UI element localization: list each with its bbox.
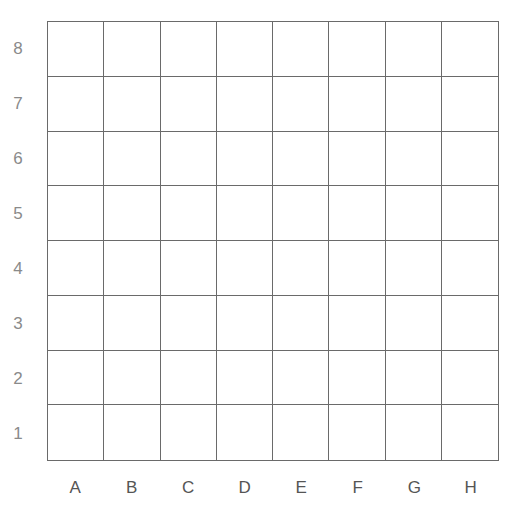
board-cell-h7[interactable]	[442, 77, 498, 132]
board-cell-c6[interactable]	[161, 132, 217, 187]
board-cell-h1[interactable]	[442, 405, 498, 460]
board-cell-f1[interactable]	[329, 405, 385, 460]
row-label: 4	[8, 259, 28, 279]
board-cell-b5[interactable]	[104, 186, 160, 241]
board-cell-d1[interactable]	[217, 405, 273, 460]
board-cell-e5[interactable]	[273, 186, 329, 241]
board-cell-f8[interactable]	[329, 22, 385, 77]
board-cell-g8[interactable]	[386, 22, 442, 77]
board-cell-a8[interactable]	[48, 22, 104, 77]
board-cell-g7[interactable]	[386, 77, 442, 132]
board-cell-c1[interactable]	[161, 405, 217, 460]
board-cell-c5[interactable]	[161, 186, 217, 241]
board-cell-c4[interactable]	[161, 241, 217, 296]
board-cell-b4[interactable]	[104, 241, 160, 296]
board-cell-f3[interactable]	[329, 296, 385, 351]
board-cell-a2[interactable]	[48, 351, 104, 406]
board-cell-b6[interactable]	[104, 132, 160, 187]
board-cell-b7[interactable]	[104, 77, 160, 132]
board-cell-f2[interactable]	[329, 351, 385, 406]
board-cell-a4[interactable]	[48, 241, 104, 296]
row-label: 8	[8, 39, 28, 59]
board-cell-d6[interactable]	[217, 132, 273, 187]
board-cell-e4[interactable]	[273, 241, 329, 296]
row-label: 1	[8, 424, 28, 444]
board-cell-d7[interactable]	[217, 77, 273, 132]
board-cell-c2[interactable]	[161, 351, 217, 406]
column-label: D	[230, 478, 260, 498]
board-cell-b8[interactable]	[104, 22, 160, 77]
board-cell-d2[interactable]	[217, 351, 273, 406]
column-label: C	[173, 478, 203, 498]
board-cell-f7[interactable]	[329, 77, 385, 132]
column-label: B	[117, 478, 147, 498]
board-cell-h3[interactable]	[442, 296, 498, 351]
column-label: G	[399, 478, 429, 498]
column-label: F	[343, 478, 373, 498]
board-cell-d3[interactable]	[217, 296, 273, 351]
board-cell-h4[interactable]	[442, 241, 498, 296]
board-cell-e2[interactable]	[273, 351, 329, 406]
board-cell-f6[interactable]	[329, 132, 385, 187]
board-cell-g6[interactable]	[386, 132, 442, 187]
board-cell-a3[interactable]	[48, 296, 104, 351]
row-label: 2	[8, 369, 28, 389]
board-cell-e6[interactable]	[273, 132, 329, 187]
column-label: H	[456, 478, 486, 498]
board-cell-h2[interactable]	[442, 351, 498, 406]
board-cell-g5[interactable]	[386, 186, 442, 241]
board-cell-d5[interactable]	[217, 186, 273, 241]
column-label: E	[286, 478, 316, 498]
board-cell-e8[interactable]	[273, 22, 329, 77]
board-cell-h5[interactable]	[442, 186, 498, 241]
board-cell-c3[interactable]	[161, 296, 217, 351]
board-cell-b1[interactable]	[104, 405, 160, 460]
board-cell-c8[interactable]	[161, 22, 217, 77]
grid-board	[47, 21, 499, 461]
board-cell-g1[interactable]	[386, 405, 442, 460]
row-label: 5	[8, 204, 28, 224]
column-label: A	[60, 478, 90, 498]
board-cell-g4[interactable]	[386, 241, 442, 296]
board-cell-a6[interactable]	[48, 132, 104, 187]
board-cell-a1[interactable]	[48, 405, 104, 460]
board-cell-e3[interactable]	[273, 296, 329, 351]
row-label: 7	[8, 94, 28, 114]
board-cell-f5[interactable]	[329, 186, 385, 241]
row-label: 3	[8, 314, 28, 334]
board-cell-g3[interactable]	[386, 296, 442, 351]
board-cell-h6[interactable]	[442, 132, 498, 187]
board-cell-d8[interactable]	[217, 22, 273, 77]
board-cell-e7[interactable]	[273, 77, 329, 132]
board-cell-d4[interactable]	[217, 241, 273, 296]
board-cell-g2[interactable]	[386, 351, 442, 406]
board-cell-e1[interactable]	[273, 405, 329, 460]
board-cell-a7[interactable]	[48, 77, 104, 132]
board-cell-b3[interactable]	[104, 296, 160, 351]
board-cell-f4[interactable]	[329, 241, 385, 296]
board-cell-b2[interactable]	[104, 351, 160, 406]
board-cell-a5[interactable]	[48, 186, 104, 241]
board-cell-h8[interactable]	[442, 22, 498, 77]
board-cell-c7[interactable]	[161, 77, 217, 132]
row-label: 6	[8, 149, 28, 169]
